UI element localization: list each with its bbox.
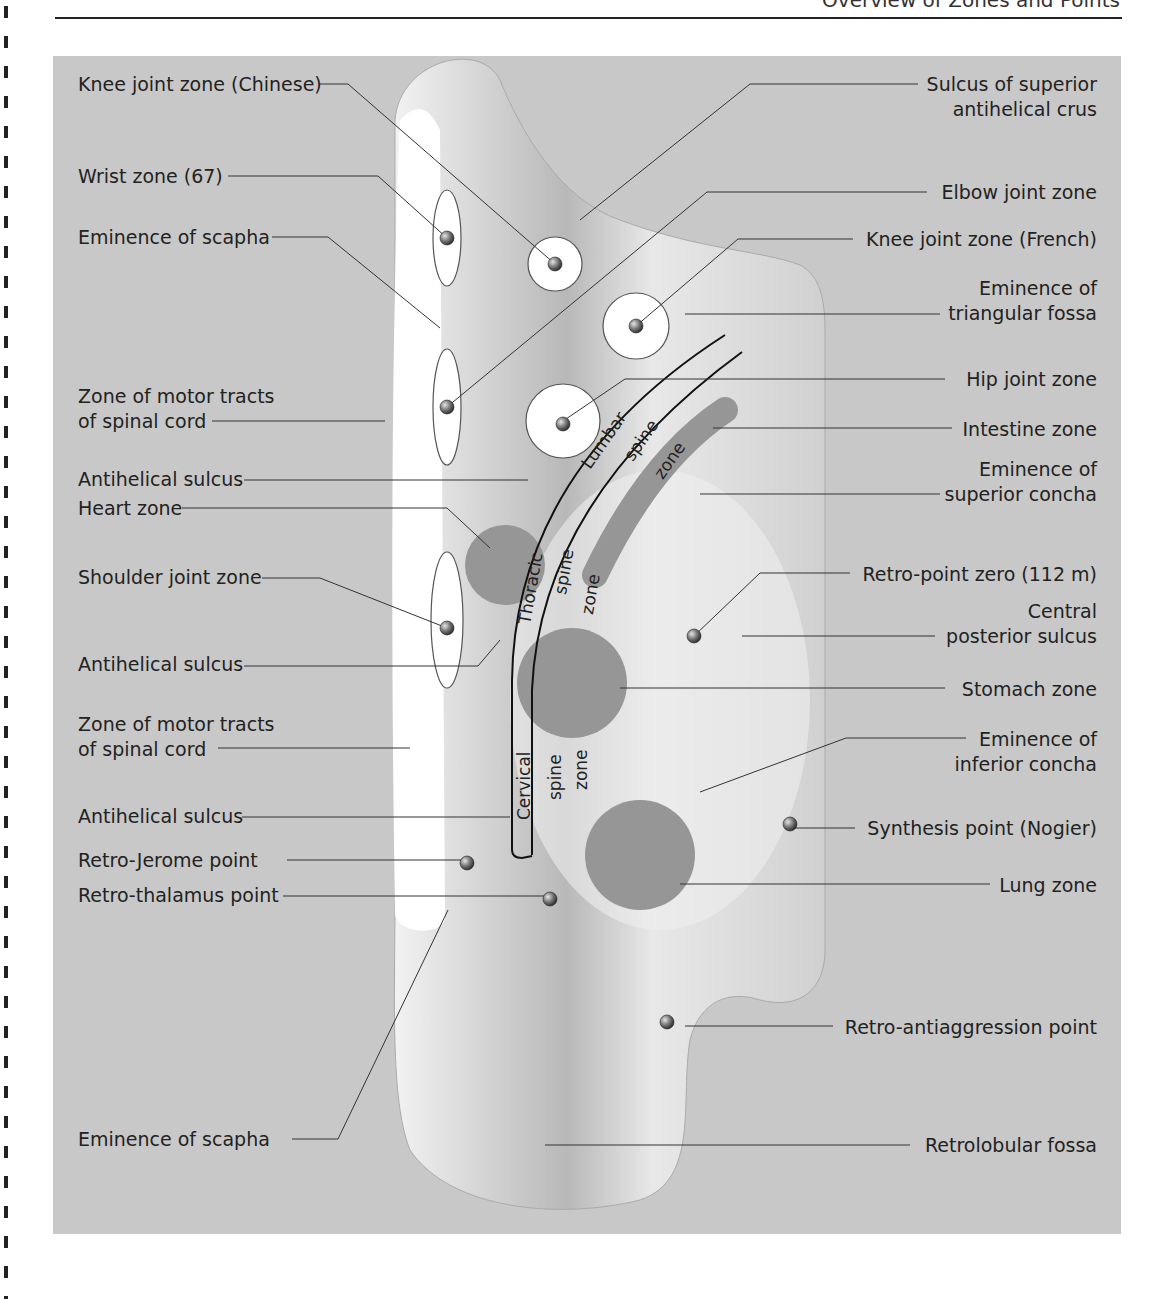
cervical-spine-label: spine xyxy=(543,754,568,800)
label-shoulder-joint-zone: Shoulder joint zone xyxy=(78,565,262,590)
label-antihelical-sulcus-2: Antihelical sulcus xyxy=(78,652,243,677)
label-zone-of-motor-tracts-upper-line2: of spinal cord xyxy=(78,409,206,434)
lung-zone-area xyxy=(585,800,695,910)
label-eminence-superior-concha-line2: superior concha xyxy=(944,482,1097,507)
retro-antiaggression-point-icon xyxy=(660,1015,674,1029)
label-zone-of-motor-tracts-lower-line1: Zone of motor tracts xyxy=(78,712,275,737)
label-retro-antiaggression-point: Retro-antiaggression point xyxy=(845,1015,1097,1040)
label-knee-joint-zone-french: Knee joint zone (French) xyxy=(866,227,1097,252)
label-heart-zone: Heart zone xyxy=(78,496,182,521)
label-lung-zone: Lung zone xyxy=(999,873,1097,898)
label-retro-jerome-point: Retro-Jerome point xyxy=(78,848,258,873)
label-sulcus-superior-antihelical-crus-line2: antihelical crus xyxy=(953,97,1097,122)
label-eminence-inferior-concha-line2: inferior concha xyxy=(954,752,1097,777)
synthesis-point-icon xyxy=(783,817,797,831)
stomach-zone-area xyxy=(517,628,627,738)
label-eminence-triangular-fossa-line1: Eminence of xyxy=(979,276,1097,301)
label-retro-point-zero: Retro-point zero (112 m) xyxy=(862,562,1097,587)
retro-jerome-point-icon xyxy=(460,856,474,870)
label-antihelical-sulcus-3: Antihelical sulcus xyxy=(78,804,243,829)
label-eminence-inferior-concha-line1: Eminence of xyxy=(979,727,1097,752)
label-wrist-zone: Wrist zone (67) xyxy=(78,164,223,189)
label-retrolobular-fossa: Retrolobular fossa xyxy=(925,1133,1097,1158)
wrist-point-icon xyxy=(440,231,454,245)
label-eminence-superior-concha-line1: Eminence of xyxy=(979,457,1097,482)
label-retro-thalamus-point: Retro-thalamus point xyxy=(78,883,279,908)
retro-point-zero-icon xyxy=(687,629,701,643)
label-elbow-joint-zone: Elbow joint zone xyxy=(941,180,1097,205)
label-central-posterior-sulcus-line2: posterior sulcus xyxy=(946,624,1097,649)
label-sulcus-superior-antihelical-crus-line1: Sulcus of superior xyxy=(927,72,1097,97)
cervical-zone-label: zone xyxy=(569,749,594,790)
knee-chinese-point-icon xyxy=(548,257,562,271)
hip-point-icon xyxy=(556,417,570,431)
label-synthesis-point: Synthesis point (Nogier) xyxy=(867,816,1097,841)
label-eminence-of-scapha-lower: Eminence of scapha xyxy=(78,1127,270,1152)
elbow-point-icon xyxy=(440,400,454,414)
label-zone-of-motor-tracts-upper-line1: Zone of motor tracts xyxy=(78,384,275,409)
label-eminence-triangular-fossa-line2: triangular fossa xyxy=(948,301,1097,326)
retro-thalamus-point-icon xyxy=(543,892,557,906)
svg-text:Cervical: Cervical xyxy=(514,751,534,820)
label-intestine-zone: Intestine zone xyxy=(962,417,1097,442)
label-stomach-zone: Stomach zone xyxy=(962,677,1097,702)
label-hip-joint-zone: Hip joint zone xyxy=(966,367,1097,392)
knee-french-point-icon xyxy=(629,319,643,333)
label-knee-joint-zone-chinese: Knee joint zone (Chinese) xyxy=(78,72,322,97)
shoulder-point-icon xyxy=(440,621,454,635)
label-central-posterior-sulcus-line1: Central xyxy=(1028,599,1097,624)
label-eminence-of-scapha-upper: Eminence of scapha xyxy=(78,225,270,250)
label-antihelical-sulcus-1: Antihelical sulcus xyxy=(78,467,243,492)
label-zone-of-motor-tracts-lower-line2: of spinal cord xyxy=(78,737,206,762)
